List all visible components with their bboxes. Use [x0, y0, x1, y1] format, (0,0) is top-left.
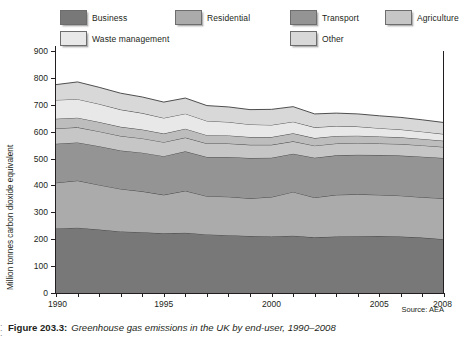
figure-number: Figure 203.3:	[8, 322, 67, 333]
legend-swatch-icon	[290, 31, 317, 46]
x-tick	[250, 293, 251, 297]
x-tick-label-2005: 2005	[370, 299, 389, 309]
legend-item-residential: Residential	[175, 10, 250, 25]
x-tick	[99, 293, 100, 297]
x-tick	[207, 293, 208, 297]
legend-swatch-icon	[385, 10, 412, 25]
legend-label: Other	[322, 34, 344, 44]
legend-item-transport: Transport	[290, 10, 359, 25]
x-tick	[336, 293, 337, 297]
legend-label: Residential	[207, 13, 250, 23]
area-band-business	[56, 228, 444, 293]
y-tick	[51, 51, 56, 52]
y-tick	[51, 239, 56, 240]
source-note: Source: AEA	[401, 305, 444, 314]
y-tick	[51, 159, 56, 160]
x-tick	[315, 293, 316, 297]
legend-swatch-icon	[60, 31, 87, 46]
y-axis-line	[55, 46, 56, 293]
y-axis-title: Million tonnes carbon dioxide equivalent	[6, 50, 15, 290]
legend-swatch-icon	[175, 10, 202, 25]
chart-legend: BusinessResidentialTransportAgricultureP…	[60, 10, 470, 50]
x-tick	[228, 293, 229, 297]
legend-label: Transport	[322, 13, 359, 23]
legend-swatch-icon	[60, 10, 87, 25]
y-tick	[51, 78, 56, 79]
x-tick-label-2000: 2000	[262, 299, 281, 309]
x-tick	[121, 293, 122, 297]
y-tick-label: 400	[34, 180, 48, 190]
legend-swatch-icon	[290, 10, 317, 25]
x-tick	[56, 293, 57, 297]
x-tick	[444, 293, 445, 297]
y-tick-label: 100	[34, 261, 48, 271]
chart-plot-area: 0100200300400500600700800900 19901995200…	[56, 51, 444, 293]
y-tick-label: 900	[34, 46, 48, 56]
y-tick-label: 300	[34, 207, 48, 217]
y-tick	[51, 185, 56, 186]
y-tick-label: 500	[34, 154, 48, 164]
y-tick-label: 200	[34, 234, 48, 244]
caption-dots-icon: ...	[0, 321, 3, 336]
legend-item-agriculture: Agriculture	[385, 10, 459, 25]
y-tick-label: 700	[34, 100, 48, 110]
figure-caption: Figure 203.3: Greenhouse gas emissions i…	[8, 322, 467, 333]
x-tick	[358, 293, 359, 297]
x-tick-label-1995: 1995	[154, 299, 173, 309]
x-tick	[78, 293, 79, 297]
x-tick	[164, 293, 165, 297]
x-tick	[272, 293, 273, 297]
y-tick	[51, 105, 56, 106]
plot-clip	[56, 51, 444, 293]
x-tick	[142, 293, 143, 297]
x-tick	[185, 293, 186, 297]
x-tick	[293, 293, 294, 297]
stacked-area-chart	[56, 51, 444, 293]
y-tick	[51, 266, 56, 267]
y-tick-label: 600	[34, 127, 48, 137]
legend-label: Waste management	[92, 34, 169, 44]
y-tick	[51, 212, 56, 213]
plot-right-border	[443, 51, 444, 293]
legend-item-business: Business	[60, 10, 127, 25]
x-tick	[401, 293, 402, 297]
legend-item-other: Other	[290, 31, 344, 46]
figure-title: Greenhouse gas emissions in the UK by en…	[71, 322, 336, 333]
y-tick-label: 800	[34, 73, 48, 83]
y-tick	[51, 132, 56, 133]
x-tick-label-1990: 1990	[48, 299, 67, 309]
x-tick	[422, 293, 423, 297]
legend-label: Business	[92, 13, 127, 23]
y-tick-label: 0	[43, 288, 48, 298]
legend-item-waste-management: Waste management	[60, 31, 169, 46]
x-tick	[379, 293, 380, 297]
legend-label: Agriculture	[417, 13, 459, 23]
